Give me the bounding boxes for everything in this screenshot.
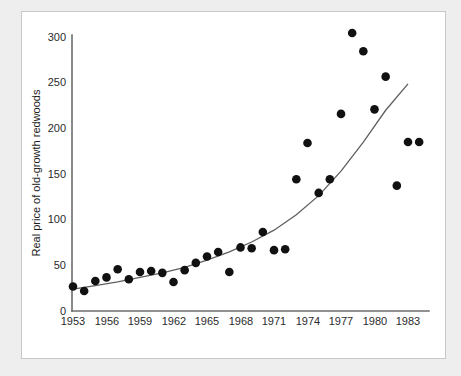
data-point <box>192 259 201 268</box>
data-point <box>415 138 424 147</box>
y-tick-label-300: 300 <box>48 31 66 43</box>
data-point <box>281 245 290 254</box>
data-point <box>113 265 122 274</box>
x-tick-label-1956: 1956 <box>95 315 119 327</box>
data-point <box>381 72 390 81</box>
data-point <box>102 273 111 282</box>
data-point <box>91 277 100 286</box>
x-tick-label-1968: 1968 <box>229 315 253 327</box>
data-point <box>203 252 212 261</box>
y-tick-label-250: 250 <box>48 76 66 88</box>
x-tick-label-1974: 1974 <box>296 315 320 327</box>
figure-card: 0 50 100 150 200 250 300 1953 1956 1959 … <box>21 11 446 359</box>
x-tick-label-1962: 1962 <box>162 315 186 327</box>
data-point <box>214 248 223 257</box>
data-point <box>359 47 368 56</box>
data-point <box>270 246 279 255</box>
y-axis-title: Real price of old-growth redwoods <box>30 89 42 256</box>
x-tick-label-1953: 1953 <box>61 315 85 327</box>
data-point <box>225 268 234 277</box>
data-point <box>158 269 167 278</box>
data-point <box>136 268 145 277</box>
y-tick-label-200: 200 <box>48 122 66 134</box>
data-point <box>147 267 156 276</box>
data-points-group <box>69 29 424 296</box>
data-point <box>292 175 301 184</box>
data-point <box>180 266 189 275</box>
data-point <box>169 278 178 287</box>
y-tick-label-100: 100 <box>48 213 66 225</box>
data-point <box>303 139 312 148</box>
data-point <box>348 29 357 38</box>
x-tick-label-1980: 1980 <box>363 315 387 327</box>
data-point <box>370 105 379 114</box>
x-tick-label-1971: 1971 <box>262 315 286 327</box>
data-point <box>337 110 346 119</box>
data-point <box>326 175 335 184</box>
data-point <box>125 275 134 284</box>
data-point <box>247 244 256 253</box>
data-point <box>314 189 323 198</box>
y-tick-label-150: 150 <box>48 168 66 180</box>
data-point <box>404 138 413 147</box>
data-point <box>236 243 245 252</box>
scatter-plot: 0 50 100 150 200 250 300 1953 1956 1959 … <box>22 12 445 358</box>
y-tick-label-50: 50 <box>54 259 66 271</box>
x-tick-label-1977: 1977 <box>329 315 353 327</box>
x-tick-label-1959: 1959 <box>128 315 152 327</box>
data-point <box>259 228 268 237</box>
x-tick-label-1983: 1983 <box>396 315 420 327</box>
trend-curve <box>73 84 408 289</box>
x-tick-label-1965: 1965 <box>195 315 219 327</box>
data-point <box>80 287 89 296</box>
data-point <box>393 181 402 190</box>
data-point <box>69 282 78 291</box>
